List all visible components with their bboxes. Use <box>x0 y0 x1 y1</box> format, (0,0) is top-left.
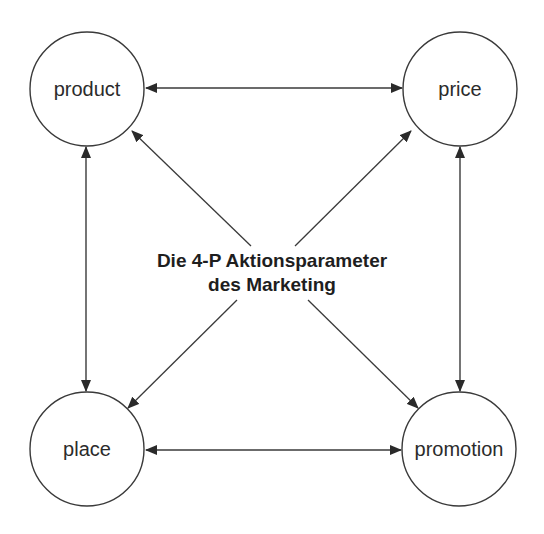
node-label-product: product <box>54 77 121 101</box>
center-title-line-1: Die 4-P Aktionsparameter <box>157 249 387 273</box>
node-label-place: place <box>63 437 111 461</box>
edge-center-place <box>128 300 237 408</box>
node-label-promotion: promotion <box>415 437 504 461</box>
center-title: Die 4-P Aktionsparameter des Marketing <box>157 249 387 297</box>
edge-center-promotion <box>308 300 418 408</box>
edge-center-price <box>295 131 411 246</box>
node-label-price: price <box>438 77 481 101</box>
center-title-line-2: des Marketing <box>157 273 387 297</box>
edge-center-product <box>132 131 251 246</box>
